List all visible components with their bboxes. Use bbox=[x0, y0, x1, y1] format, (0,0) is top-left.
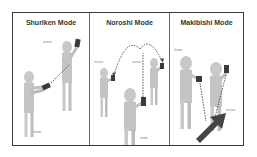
arrow-icon bbox=[196, 113, 226, 145]
panel-noroshi-mode: Noroshi Mode receiver receiver sender bbox=[89, 13, 169, 145]
noroshi-illustration bbox=[90, 13, 170, 147]
panel-makibishi-mode: Makibishi Mode thrower receiver bbox=[169, 13, 243, 145]
person-figure bbox=[180, 56, 202, 129]
diagram-frame: Shuriken Mode receiver thrower bbox=[12, 12, 244, 146]
person-figure bbox=[150, 58, 164, 105]
shuriken-illustration bbox=[13, 13, 89, 147]
person-figure bbox=[100, 68, 115, 117]
panel-shuriken-mode: Shuriken Mode receiver thrower bbox=[13, 13, 89, 145]
person-figure bbox=[24, 71, 51, 137]
makibishi-illustration bbox=[170, 13, 246, 147]
person-figure bbox=[62, 39, 81, 111]
